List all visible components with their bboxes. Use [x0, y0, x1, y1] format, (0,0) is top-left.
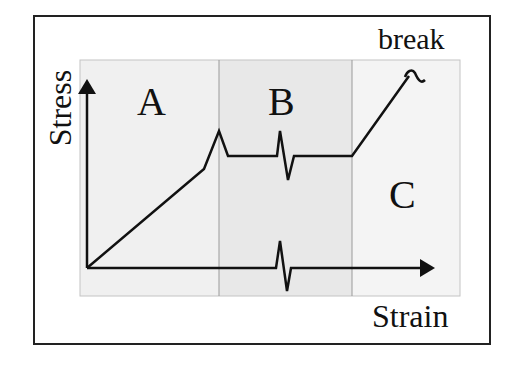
stress-strain-diagram: [0, 0, 528, 366]
y-axis-label: Stress: [44, 58, 76, 158]
break-label: break: [378, 24, 445, 54]
zone-b-label: B: [268, 82, 295, 122]
x-axis-label: Strain: [372, 300, 448, 332]
zone-a-label: A: [137, 82, 166, 122]
zone-c-label: C: [389, 175, 416, 215]
